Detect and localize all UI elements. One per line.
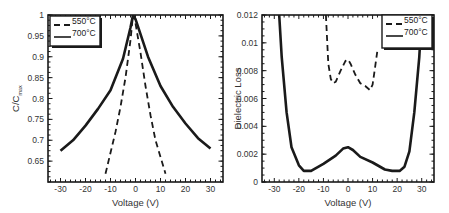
x-tick-label: 30 xyxy=(206,184,216,194)
y-tick-label: 0.01 xyxy=(241,38,258,48)
y-axis-label: C/Cmax xyxy=(10,85,23,112)
y-tick-label: 0.85 xyxy=(27,73,44,83)
y-tick-label: 0.95 xyxy=(27,31,44,41)
y-tick-label: 0 xyxy=(253,177,258,187)
legend-label: 550°C xyxy=(404,15,428,25)
series-line-550 xyxy=(326,15,378,90)
y-tick-label: 0.65 xyxy=(27,156,44,166)
dielectric-loss-chart: -30-20-10010203000.0020.0040.0060.0080.0… xyxy=(225,0,449,213)
x-tick-label: -10 xyxy=(317,184,330,194)
x-tick-label: 20 xyxy=(181,184,191,194)
x-tick-label: -30 xyxy=(268,184,281,194)
x-axis-label: Voltage (V) xyxy=(325,197,372,208)
y-tick-label: 0.7 xyxy=(32,135,44,145)
y-axis-label: Dielectric Loss xyxy=(232,67,243,129)
legend-label: 700°C xyxy=(72,28,96,38)
x-axis-label: Voltage (V) xyxy=(112,197,159,208)
x-tick-label: -10 xyxy=(104,184,117,194)
x-tick-label: 10 xyxy=(368,184,378,194)
x-tick-label: 30 xyxy=(417,184,427,194)
legend: 550°C700°C xyxy=(50,16,102,48)
x-tick-label: 20 xyxy=(392,184,402,194)
x-tick-label: 0 xyxy=(133,184,138,194)
x-tick-label: -20 xyxy=(293,184,306,194)
legend-label: 700°C xyxy=(404,27,428,37)
capacitance-chart: -30-20-1001020300.650.70.750.80.850.90.9… xyxy=(0,0,225,213)
x-tick-label: -30 xyxy=(54,184,67,194)
y-tick-label: 0.9 xyxy=(32,52,44,62)
y-tick-label: 1 xyxy=(39,10,44,20)
legend-label: 550°C xyxy=(72,16,96,26)
y-tick-label: 0.8 xyxy=(32,94,44,104)
series-line-550 xyxy=(106,15,166,174)
y-tick-label: 0.002 xyxy=(237,149,259,159)
legend: 550°C700°C xyxy=(382,15,434,50)
x-tick-label: 10 xyxy=(156,184,166,194)
y-tick-label: 0.75 xyxy=(27,114,44,124)
x-tick-label: 0 xyxy=(346,184,351,194)
y-tick-label: 0.012 xyxy=(237,10,259,20)
x-tick-label: -20 xyxy=(79,184,92,194)
